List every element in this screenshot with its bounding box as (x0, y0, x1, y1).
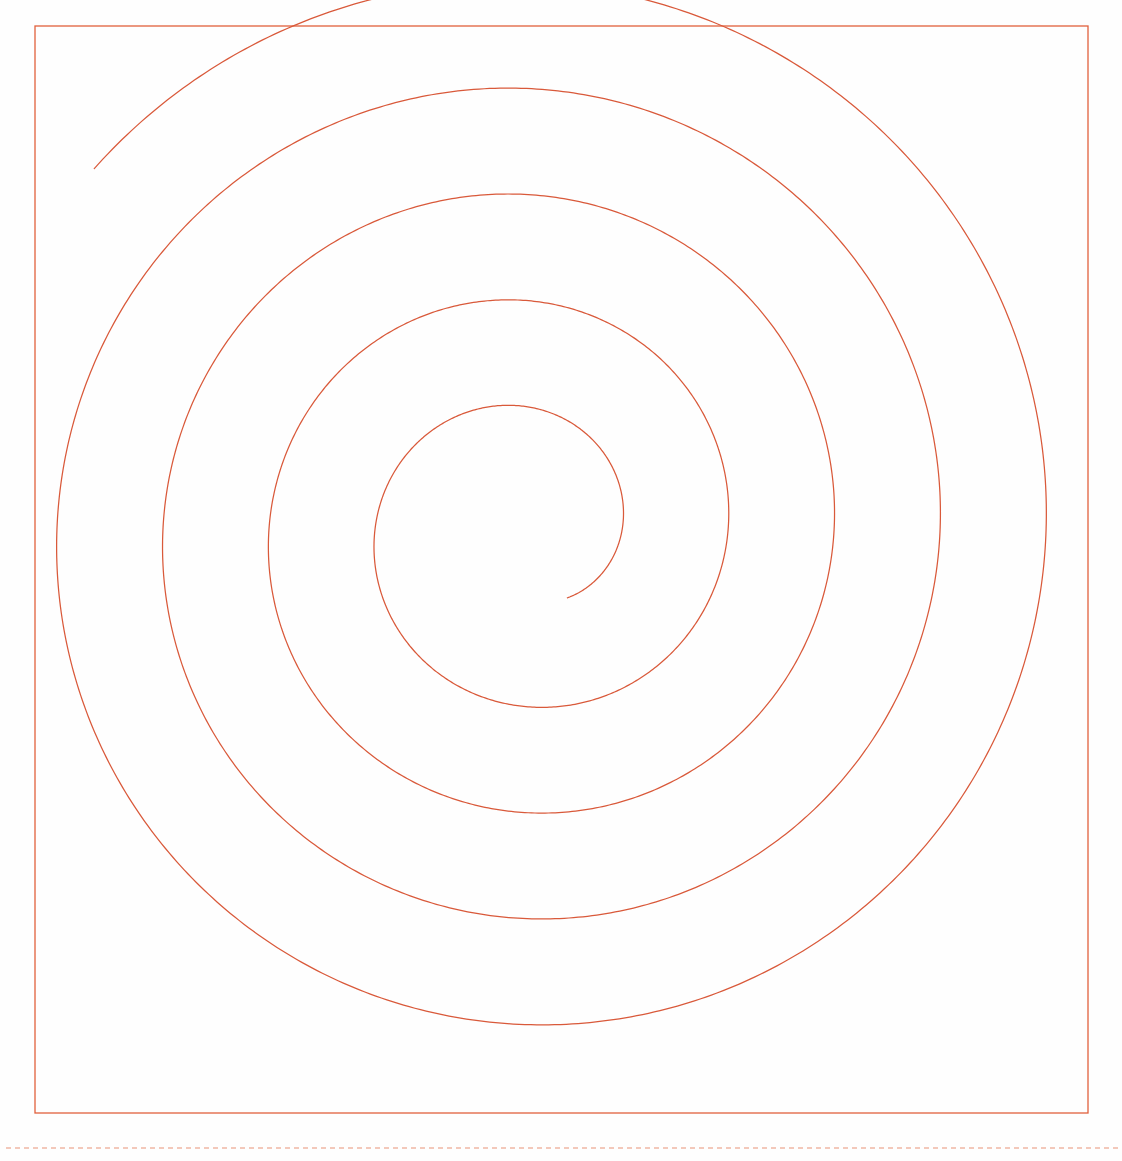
spiral-curve (57, 0, 1047, 1025)
canvas-frame-rect (35, 26, 1088, 1113)
spiral-drawing-svg (0, 0, 1122, 1161)
drawing-canvas (0, 0, 1122, 1161)
